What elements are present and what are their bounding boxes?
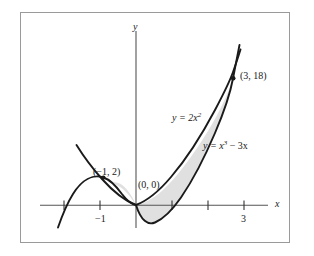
curve-label-cubic-prefix: y = x <box>203 140 224 151</box>
curve-label-parabola-text: y = 2x <box>172 112 198 123</box>
curve-label-cubic: y = x3 − 3x <box>203 140 248 151</box>
intersection-dot-3-18 <box>231 76 236 81</box>
figure-container: x y −1 3 (−1, 2) (0, 0) (3, 18) y = 2x2 … <box>0 0 314 256</box>
y-axis-label: y <box>133 22 137 32</box>
point-label-minus1-2: (−1, 2) <box>93 167 120 177</box>
x-tick-label-minus1: −1 <box>95 214 106 224</box>
x-tick-label-3: 3 <box>241 214 246 224</box>
x-axis-label: x <box>275 199 279 209</box>
curve-label-parabola-exponent: 2 <box>198 111 202 119</box>
curve-label-parabola: y = 2x2 <box>172 112 201 123</box>
point-label-3-18: (3, 18) <box>240 71 267 81</box>
point-label-origin: (0, 0) <box>138 180 160 190</box>
curve-label-cubic-suffix: − 3x <box>227 140 248 151</box>
graph-canvas <box>0 0 314 256</box>
